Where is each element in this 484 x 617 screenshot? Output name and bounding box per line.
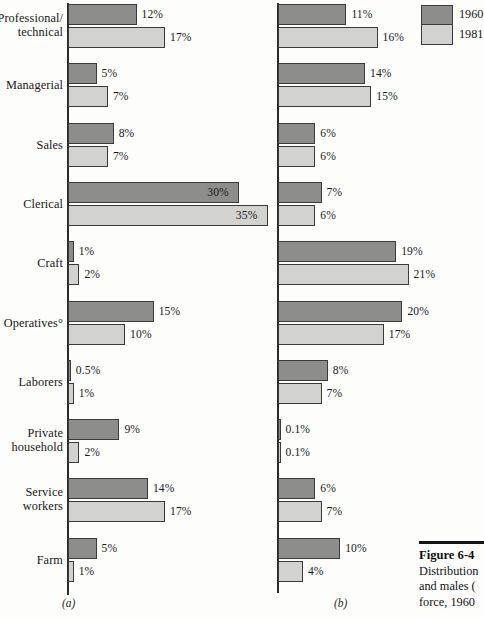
bar-1981: [278, 442, 281, 463]
bar-value-label: 6%: [320, 209, 336, 222]
bar-1960: [278, 419, 281, 440]
bar-1981: [68, 383, 74, 404]
bar-1981: [68, 501, 165, 522]
legend-swatch-1981: [422, 25, 452, 44]
bar-value-label: 1%: [79, 565, 95, 578]
bar-1960: [68, 478, 148, 499]
chart-row: 7%6%: [270, 182, 415, 226]
category-label: Operatives°: [0, 317, 63, 331]
bar-value-label: 7%: [327, 186, 343, 199]
bar-value-label: 8%: [333, 364, 349, 377]
legend-swatch-1960: [422, 6, 452, 25]
bar-group: 0.5%: [68, 360, 270, 381]
chart-row: 20%17%: [270, 301, 415, 345]
bar-1981: [68, 324, 125, 345]
bar-1960: [68, 241, 74, 262]
legend-swatch-box: [421, 5, 453, 45]
bar-group: 17%: [68, 27, 270, 48]
category-label: Clerical: [0, 198, 63, 212]
bar-1981: [278, 27, 378, 48]
bar-value-label: 0.1%: [286, 446, 311, 459]
bar-group: 7%: [278, 182, 415, 203]
bar-1981: [68, 146, 108, 167]
bar-group: 9%: [68, 419, 270, 440]
bar-group: 19%: [278, 241, 415, 262]
bar-value-label: 4%: [308, 565, 324, 578]
bar-value-label: 7%: [327, 387, 343, 400]
bar-1981: [278, 324, 384, 345]
bar-group: 15%: [68, 301, 270, 322]
bar-value-label: 15%: [159, 305, 181, 318]
category-label: Professional/technical: [0, 12, 63, 40]
bar-value-label: 5%: [102, 542, 118, 555]
bar-1960: [278, 301, 402, 322]
chart-row: 8%7%: [270, 360, 415, 404]
bar-value-label: 7%: [113, 150, 129, 163]
bar-group: 30%: [68, 182, 270, 203]
bar-value-label: 14%: [370, 67, 392, 80]
bar-1981: [278, 146, 315, 167]
chart-row: Operatives°15%10%: [0, 301, 270, 345]
bar-value-label: 5%: [102, 67, 118, 80]
caption-line: Distribution: [419, 564, 484, 579]
bar-1960: [278, 478, 315, 499]
legend-label-1981: 1981: [459, 27, 483, 42]
bar-value-label: 17%: [170, 505, 192, 518]
legend-label-1960: 1960: [459, 7, 483, 22]
category-label: Serviceworkers: [0, 486, 63, 514]
bar-1981: [278, 383, 322, 404]
bar-1981: [278, 264, 409, 285]
chart-row: Managerial5%7%: [0, 63, 270, 107]
bar-value-label: 9%: [124, 423, 140, 436]
chart-row: Sales8%7%: [0, 123, 270, 167]
chart-row: Clerical30%35%: [0, 182, 270, 226]
bar-value-label: 12%: [142, 8, 164, 21]
bar-value-label: 1%: [79, 387, 95, 400]
caption-line: and males (: [419, 579, 484, 594]
chart-row: 6%7%: [270, 478, 415, 522]
chart-row: Farm5%1%: [0, 538, 270, 582]
bar-group: 7%: [68, 86, 270, 107]
bar-value-label: 8%: [119, 127, 135, 140]
bar-1981: [278, 205, 315, 226]
chart-row: 0.1%0.1%: [270, 419, 415, 463]
bar-value-label: 11%: [351, 8, 372, 21]
bar-1981: [68, 86, 108, 107]
bar-group: 7%: [278, 383, 415, 404]
chart-row: Privatehousehold9%2%: [0, 419, 270, 463]
chart-row: 19%21%: [270, 241, 415, 285]
bar-value-label: 17%: [170, 31, 192, 44]
bar-group: 7%: [278, 501, 415, 522]
bar-group: 35%: [68, 205, 270, 226]
bar-value-label: 6%: [320, 127, 336, 140]
bar-group: 7%: [68, 146, 270, 167]
bar-value-label: 10%: [130, 328, 152, 341]
bar-value-label: 30%: [207, 186, 229, 199]
bar-1960: [68, 63, 97, 84]
bar-1981: [68, 442, 79, 463]
bar-1960: [278, 360, 328, 381]
bar-group: 6%: [278, 146, 415, 167]
bar-group: 1%: [68, 241, 270, 262]
bar-value-label: 14%: [153, 482, 175, 495]
bar-group: 21%: [278, 264, 415, 285]
category-label: Farm: [0, 554, 63, 568]
bar-group: 20%: [278, 301, 415, 322]
bar-group: 8%: [68, 123, 270, 144]
category-label: Craft: [0, 257, 63, 271]
chart-row: 10%4%: [270, 538, 415, 582]
bar-1981: [278, 501, 322, 522]
chart-row: Serviceworkers14%17%: [0, 478, 270, 522]
bar-1981: [68, 264, 79, 285]
chart-row: Craft1%2%: [0, 241, 270, 285]
bar-value-label: 19%: [401, 245, 423, 258]
bar-group: 11%: [278, 4, 415, 25]
chart-row: 11%16%: [270, 4, 415, 48]
bar-value-label: 1%: [79, 245, 95, 258]
bar-1960: [278, 4, 346, 25]
chart-panel-b: 11%16%14%15%6%6%7%6%19%21%20%17%8%7%0.1%…: [270, 0, 415, 600]
bar-group: 15%: [278, 86, 415, 107]
caption-title: Figure 6-4: [419, 548, 484, 563]
bar-group: 1%: [68, 561, 270, 582]
bar-group: 12%: [68, 4, 270, 25]
